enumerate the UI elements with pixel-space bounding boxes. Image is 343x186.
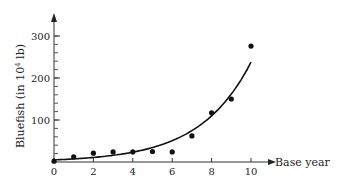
x-tick-label: 8 xyxy=(208,166,214,177)
data-point xyxy=(51,159,56,164)
data-point xyxy=(209,110,214,115)
y-axis-label: Bluefish (in 104 lb) xyxy=(14,44,27,148)
data-point xyxy=(189,133,194,138)
y-tick-label: 300 xyxy=(31,31,50,42)
x-axis-label: Base year xyxy=(275,156,331,169)
x-tick-label: 0 xyxy=(51,166,57,177)
y-tick-label: 100 xyxy=(31,115,50,126)
x-tick-label: 4 xyxy=(130,166,136,177)
data-point xyxy=(170,149,175,154)
data-point xyxy=(111,149,116,154)
chart: 0246810100200300 Base year Bluefish (in … xyxy=(0,0,343,186)
x-tick-label: 2 xyxy=(90,166,96,177)
data-point xyxy=(229,96,234,101)
x-tick-label: 6 xyxy=(169,166,175,177)
y-tick-label: 200 xyxy=(31,73,50,84)
x-tick-label: 10 xyxy=(245,166,258,177)
axes xyxy=(51,13,276,165)
fit-curve xyxy=(54,62,251,160)
y-axis-arrow-icon xyxy=(51,13,57,22)
data-point xyxy=(130,149,135,154)
data-point xyxy=(150,149,155,154)
data-point xyxy=(71,154,76,159)
data-point xyxy=(248,43,253,48)
data-point xyxy=(91,151,96,156)
